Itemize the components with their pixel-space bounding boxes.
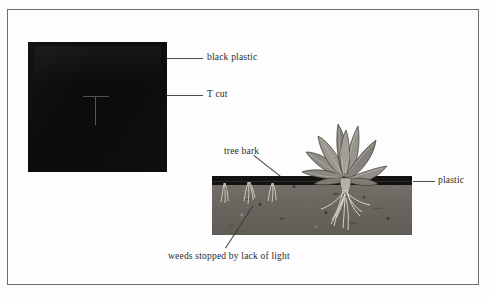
plant-roots xyxy=(321,190,370,230)
plant-crown xyxy=(340,178,351,192)
label-plastic: plastic xyxy=(438,175,464,185)
label-weeds-stopped: weeds stopped by lack of light xyxy=(168,251,290,261)
mulched-plant-illustration xyxy=(288,108,398,236)
leader-line-t-cut xyxy=(167,95,203,96)
leader-line-black-plastic xyxy=(167,58,203,59)
plastic-sheen-highlight xyxy=(34,46,162,85)
figure-canvas: black plastic T cut xyxy=(0,0,490,297)
label-t-cut: T cut xyxy=(207,89,228,99)
t-cut-vertical-slit xyxy=(95,97,96,125)
black-plastic-sheet-illustration xyxy=(28,42,167,172)
t-cut-horizontal-slit xyxy=(83,96,109,97)
label-black-plastic: black plastic xyxy=(207,52,257,62)
leader-line-plastic xyxy=(413,181,435,182)
plant-leaves xyxy=(302,124,387,185)
